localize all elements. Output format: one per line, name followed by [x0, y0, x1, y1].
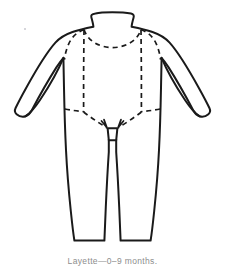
- figure-container: Layette—0–9 months.: [0, 0, 225, 277]
- garment-body-path: [15, 12, 210, 240]
- crotch-gusset-path: [108, 128, 118, 140]
- garment-outline: [15, 12, 210, 240]
- layette-illustration: [0, 0, 225, 255]
- crotch-gusset: [108, 128, 118, 140]
- figure-caption: Layette—0–9 months.: [0, 256, 225, 266]
